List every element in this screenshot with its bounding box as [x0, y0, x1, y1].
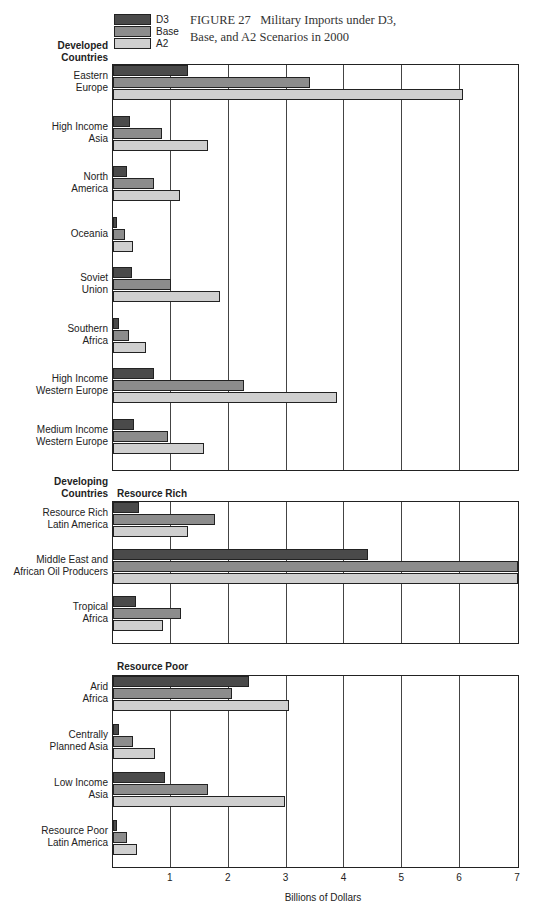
- category-label-line: Africa: [67, 335, 108, 347]
- figure-title-line1: FIGURE 27 Military Imports under D3,: [190, 12, 510, 29]
- subgroup-header-resource-poor: Resource Poor: [117, 661, 188, 673]
- category-label-line: Low Income: [54, 777, 108, 789]
- category-label-line: Africa: [73, 613, 108, 625]
- bar-d3: [113, 820, 117, 831]
- group-header-developing: Developing Countries: [54, 476, 108, 500]
- x-tick-label: 7: [507, 872, 527, 883]
- legend-label-d3: D3: [156, 14, 169, 25]
- bar-base: [113, 736, 133, 747]
- bar-d3: [113, 116, 130, 127]
- gridline: [459, 676, 460, 867]
- figure-title-line2: Base, and A2 Scenarios in 2000: [190, 29, 510, 46]
- bar-d3: [113, 318, 119, 329]
- bar-a2: [113, 342, 146, 353]
- gridline: [343, 676, 344, 867]
- bar-a2: [113, 241, 133, 252]
- chart-panel-resource-poor: [112, 675, 519, 868]
- legend-swatch-base: [114, 26, 151, 37]
- group-header-developed: Developed Countries: [57, 40, 108, 64]
- gridline: [170, 65, 171, 470]
- category-label-line: Eastern: [74, 70, 108, 82]
- category-label-line: Resource Rich: [42, 507, 108, 519]
- category-label: Resource RichLatin America: [42, 507, 108, 531]
- gridline: [286, 65, 287, 470]
- bar-d3: [113, 676, 249, 687]
- bar-base: [113, 77, 310, 88]
- bar-a2: [113, 190, 180, 201]
- group-header-developing-line2: Countries: [54, 488, 108, 500]
- bar-base: [113, 178, 154, 189]
- bar-base: [113, 832, 127, 843]
- category-label-line: Southern: [67, 323, 108, 335]
- bar-base: [113, 784, 208, 795]
- bar-a2: [113, 89, 463, 100]
- category-label-line: Medium Income: [36, 424, 108, 436]
- gridline: [228, 65, 229, 470]
- x-tick-label: 1: [160, 872, 180, 883]
- bar-base: [113, 688, 232, 699]
- category-label: Resource PoorLatin America: [41, 825, 108, 849]
- category-label-line: Western Europe: [36, 436, 108, 448]
- bar-base: [113, 514, 215, 525]
- category-label-line: Western Europe: [36, 385, 108, 397]
- bar-a2: [113, 526, 188, 537]
- category-label: NorthAmerica: [71, 171, 108, 195]
- bar-a2: [113, 700, 289, 711]
- category-label-line: Asia: [54, 789, 108, 801]
- legend-swatch-d3: [114, 14, 151, 25]
- category-label-line: Union: [80, 284, 108, 296]
- category-label: AridAfrica: [82, 681, 108, 705]
- category-label-line: African Oil Producers: [14, 566, 108, 578]
- category-label: SouthernAfrica: [67, 323, 108, 347]
- bar-a2: [113, 844, 137, 855]
- category-label: Low IncomeAsia: [54, 777, 108, 801]
- bar-base: [113, 380, 244, 391]
- bar-base: [113, 608, 181, 619]
- category-label-line: Asia: [52, 133, 108, 145]
- category-label-line: High Income: [36, 373, 108, 385]
- category-label-line: High Income: [52, 121, 108, 133]
- category-label-line: Soviet: [80, 272, 108, 284]
- group-header-developing-line1: Developing: [54, 476, 108, 488]
- x-axis-label-text: Billions of Dollars: [120, 892, 527, 903]
- bar-a2: [113, 796, 285, 807]
- category-label-line: Africa: [82, 693, 108, 705]
- bar-d3: [113, 368, 154, 379]
- bar-base: [113, 561, 518, 572]
- bar-d3: [113, 772, 165, 783]
- x-tick-label: 2: [218, 872, 238, 883]
- bar-d3: [113, 217, 117, 228]
- bar-d3: [113, 549, 368, 560]
- category-label-line: Latin America: [42, 519, 108, 531]
- bar-a2: [113, 140, 208, 151]
- group-header-developed-line1: Developed: [57, 40, 108, 52]
- category-label-line: Oceania: [71, 228, 108, 240]
- gridline: [459, 65, 460, 470]
- category-label: High IncomeAsia: [52, 121, 108, 145]
- category-label-line: Middle East and: [14, 554, 108, 566]
- category-label-line: Resource Poor: [41, 825, 108, 837]
- category-label: SovietUnion: [80, 272, 108, 296]
- bar-a2: [113, 291, 220, 302]
- legend-label-a2: A2: [156, 38, 168, 49]
- category-label: Oceania: [71, 228, 108, 240]
- chart-panel-resource-rich: [112, 501, 519, 644]
- category-label-line: Planned Asia: [50, 741, 108, 753]
- bar-base: [113, 128, 162, 139]
- category-label: CentrallyPlanned Asia: [50, 729, 108, 753]
- bar-base: [113, 279, 171, 290]
- category-label-line: Europe: [74, 82, 108, 94]
- x-axis-label: Billions of Dollars: [0, 892, 534, 903]
- bar-d3: [113, 267, 132, 278]
- x-tick-label: 6: [449, 872, 469, 883]
- bar-d3: [113, 419, 134, 430]
- bar-a2: [113, 392, 337, 403]
- category-label-line: Tropical: [73, 601, 108, 613]
- bar-d3: [113, 502, 139, 513]
- subgroup-header-resource-rich: Resource Rich: [117, 488, 187, 500]
- category-label: Medium IncomeWestern Europe: [36, 424, 108, 448]
- bar-a2: [113, 443, 204, 454]
- bar-a2: [113, 748, 155, 759]
- x-tick-label: 5: [391, 872, 411, 883]
- gridline: [401, 65, 402, 470]
